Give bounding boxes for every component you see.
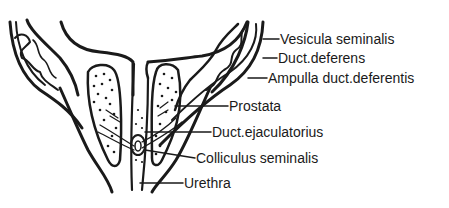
label-ampulla-duct-deferentis: Ampulla duct.deferentis <box>268 70 414 86</box>
label-colliculus-seminalis: Colliculus seminalis <box>196 150 318 166</box>
left-prostate-lobe <box>88 65 121 166</box>
label-vesicula-seminalis: Vesicula seminalis <box>280 31 394 47</box>
label-prostata: Prostata <box>229 98 281 114</box>
label-urethra: Urethra <box>184 175 231 191</box>
prostate-dots <box>93 73 178 163</box>
bladder-outline <box>61 22 133 95</box>
label-duct-deferens: Duct.deferens <box>278 50 365 66</box>
label-duct-ejaculatorius: Duct.ejaculatorius <box>212 124 323 140</box>
